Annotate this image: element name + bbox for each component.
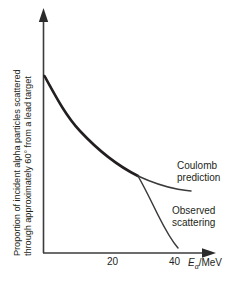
- x-tick-label-40: 40: [169, 256, 180, 267]
- annotation-coulomb-prediction: Coulomb prediction: [177, 160, 220, 184]
- y-axis-label: Proportion of incident alpha particles s…: [12, 69, 35, 256]
- x-axis-title-unit: /MeV: [199, 257, 222, 268]
- figure-container: Proportion of incident alpha particles s…: [0, 0, 236, 288]
- annotation-coulomb-line-2: prediction: [177, 172, 220, 184]
- annotation-observed-line-1: Observed: [172, 205, 215, 217]
- y-axis-label-line-2: through approximately 60° from a lead ta…: [23, 69, 34, 256]
- annotation-observed-line-2: scattering: [172, 217, 215, 229]
- x-axis-title: Eα/MeV: [188, 257, 222, 270]
- y-axis-label-line-1: Proportion of incident alpha particles s…: [12, 69, 23, 256]
- annotation-coulomb-line-1: Coulomb: [177, 160, 220, 172]
- curve-coulomb-main: [45, 76, 139, 176]
- y-axis-arrowhead: [39, 8, 48, 22]
- annotation-observed-scattering: Observed scattering: [172, 205, 215, 229]
- x-tick-label-20: 20: [107, 256, 118, 267]
- chart-canvas: [0, 0, 236, 288]
- x-axis-title-symbol: E: [188, 257, 195, 268]
